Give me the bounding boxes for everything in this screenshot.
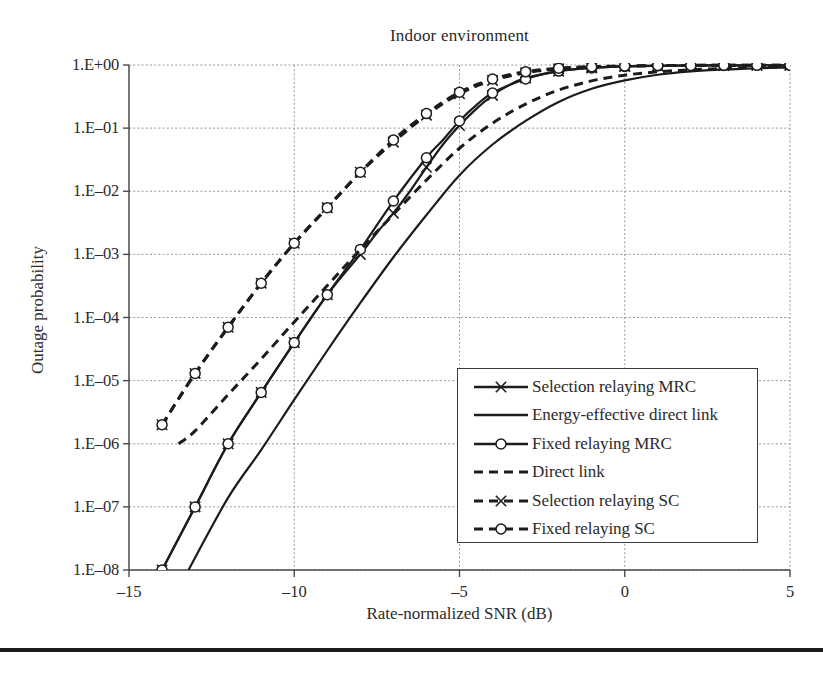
y-axis-title: Outage probability <box>28 180 48 440</box>
x-tick-label: –10 <box>264 582 324 602</box>
footer-rule <box>0 648 823 652</box>
x-tick-label: 5 <box>760 582 820 602</box>
legend-line-sample-none-icon <box>470 404 532 426</box>
legend-item-4[interactable]: Selection relaying SC <box>458 486 759 515</box>
y-tick-label: 1.E–01 <box>33 118 119 138</box>
y-tick-label: 1.E–07 <box>33 497 119 517</box>
legend-item-0[interactable]: Selection relaying MRC <box>458 372 759 401</box>
legend-line-sample-x-icon <box>470 376 532 398</box>
legend-item-label: Fixed relaying SC <box>532 519 655 539</box>
legend-item-label: Selection relaying MRC <box>532 377 696 397</box>
legend-item-5[interactable]: Fixed relaying SC <box>458 515 759 544</box>
chart-plot-area <box>0 0 823 674</box>
legend-item-label: Selection relaying SC <box>532 491 679 511</box>
legend-item-label: Direct link <box>532 462 605 482</box>
legend-line-sample-circle-icon <box>470 433 532 455</box>
legend-item-label: Fixed relaying MRC <box>532 434 672 454</box>
chart-legend: Selection relaying MRCEnergy-effective d… <box>457 368 758 543</box>
x-tick-label: 0 <box>595 582 655 602</box>
x-tick-label: –15 <box>99 582 159 602</box>
y-tick-label: 1.E+00 <box>33 55 119 75</box>
legend-line-sample-circle-icon <box>470 518 532 540</box>
x-tick-label: –5 <box>430 582 490 602</box>
legend-item-2[interactable]: Fixed relaying MRC <box>458 429 759 458</box>
y-tick-label: 1.E–08 <box>33 560 119 580</box>
x-axis-title: Rate-normalized SNR (dB) <box>129 604 790 624</box>
figure-container: Indoor environment 1.E+001.E–011.E–021.E… <box>0 0 823 674</box>
legend-line-sample-none-icon <box>470 461 532 483</box>
legend-item-1[interactable]: Energy-effective direct link <box>458 401 759 430</box>
legend-line-sample-x-icon <box>470 490 532 512</box>
legend-item-label: Energy-effective direct link <box>532 405 718 425</box>
legend-item-3[interactable]: Direct link <box>458 458 759 487</box>
